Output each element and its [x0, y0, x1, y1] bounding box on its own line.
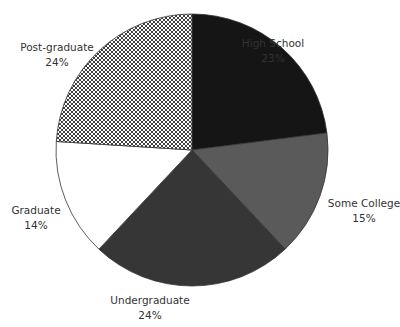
slice-percent: 24% [110, 308, 189, 323]
slice-name: High School [242, 36, 304, 51]
slice-percent: 23% [242, 51, 304, 66]
slice-name: Some College [328, 196, 400, 211]
pie-slice-high-school [192, 14, 327, 150]
slice-name: Undergraduate [110, 293, 189, 308]
slice-label-graduate: Graduate14% [11, 203, 60, 233]
slice-percent: 24% [20, 55, 94, 70]
pie-slice-post-graduate [56, 14, 192, 150]
slice-label-some-college: Some College15% [328, 196, 400, 226]
slice-label-post-graduate: Post-graduate24% [20, 40, 94, 70]
slice-label-high-school: High School23% [242, 36, 304, 66]
slice-percent: 14% [11, 218, 60, 233]
slice-name: Graduate [11, 203, 60, 218]
slice-name: Post-graduate [20, 40, 94, 55]
slice-label-undergraduate: Undergraduate24% [110, 293, 189, 323]
slice-percent: 15% [328, 211, 400, 226]
